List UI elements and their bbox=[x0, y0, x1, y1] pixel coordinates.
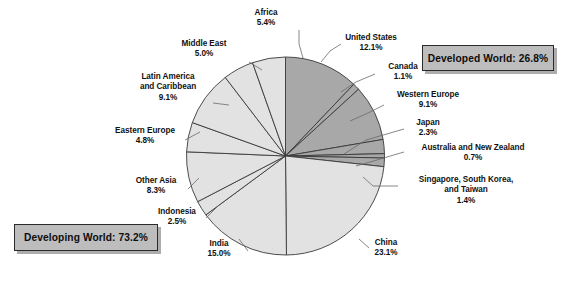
leader-africa bbox=[299, 30, 303, 58]
slice-label-china: China 23.1% bbox=[364, 238, 408, 259]
slice-label-middle-east: Middle East 5.0% bbox=[160, 39, 248, 60]
pie-chart-figure: Africa 5.4% Middle East 5.0% Latin Ameri… bbox=[0, 0, 568, 295]
slice-label-western-europe: Western Europe 9.1% bbox=[385, 90, 471, 111]
slice-label-singapore: Singapore, South Korea, and Taiwan 1.4% bbox=[404, 175, 528, 206]
slice-label-africa: Africa 5.4% bbox=[233, 8, 299, 29]
callout-developing-world: Developing World: 73.2% bbox=[14, 224, 158, 251]
slice-label-latin-america: Latin America and Caribbean 9.1% bbox=[119, 72, 217, 103]
slice-label-eastern-europe: Eastern Europe 4.8% bbox=[103, 126, 187, 147]
slice-label-australia: Australia and New Zealand 0.7% bbox=[406, 143, 540, 164]
slice-label-japan: Japan 2.3% bbox=[406, 118, 450, 139]
callout-developed-world: Developed World: 26.8% bbox=[422, 45, 554, 71]
slice-label-other-asia: Other Asia 8.3% bbox=[125, 176, 187, 197]
slice-label-united-states: United States 12.1% bbox=[334, 33, 408, 54]
slice-label-india: India 15.0% bbox=[196, 239, 242, 260]
